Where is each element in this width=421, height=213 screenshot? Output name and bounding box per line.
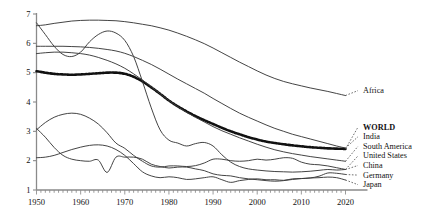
series-line-india (37, 46, 346, 148)
series-line-africa (37, 20, 346, 95)
x-tick-label: 1960 (61, 197, 101, 207)
chart-series-group (37, 20, 346, 182)
legend-leader-lines (346, 91, 359, 185)
y-tick-label: 2 (17, 155, 31, 165)
legend-item-india[interactable]: India (363, 132, 380, 142)
series-line-germany (37, 145, 346, 183)
x-tick-label: 2010 (281, 197, 321, 207)
x-tick-label: 1990 (193, 197, 233, 207)
y-tick-label: 7 (17, 9, 31, 19)
y-tick-label: 3 (17, 126, 31, 136)
legend-item-china[interactable]: China (363, 161, 383, 171)
legend-item-south-america[interactable]: South America (363, 142, 412, 152)
x-tick-label: 1950 (17, 197, 57, 207)
x-tick-label: 1970 (105, 197, 145, 207)
fertility-rate-line-chart: 7654321 19501960197019801990200020102020… (0, 0, 421, 213)
y-tick-label: 4 (17, 97, 31, 107)
x-tick-label: 2020 (326, 197, 366, 207)
y-tick-label: 6 (17, 38, 31, 48)
y-tick-label: 1 (17, 185, 31, 195)
legend-item-germany[interactable]: Germany (363, 171, 393, 181)
legend-item-united-states[interactable]: United States (363, 151, 407, 161)
series-line-world (37, 71, 346, 149)
x-tick-label: 2000 (237, 197, 277, 207)
legend-item-africa[interactable]: Africa (363, 86, 384, 96)
y-tick-label: 5 (17, 67, 31, 77)
series-line-china (37, 23, 346, 172)
x-tick-label: 1980 (149, 197, 189, 207)
legend-item-japan[interactable]: Japan (363, 180, 382, 190)
chart-plot-area (0, 0, 421, 213)
legend-item-world[interactable]: WORLD (363, 123, 395, 133)
chart-axes (33, 13, 368, 195)
